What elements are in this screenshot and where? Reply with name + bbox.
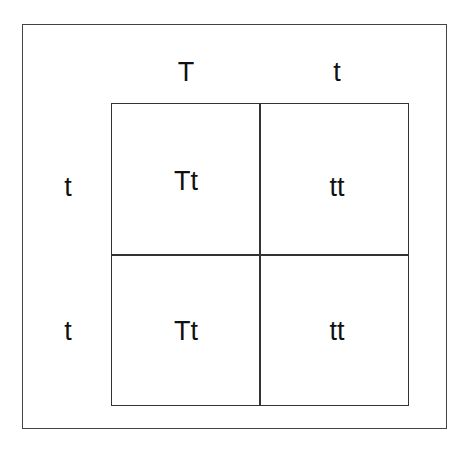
column-allele-1: T xyxy=(166,59,206,86)
cell-r1-c2: tt xyxy=(297,174,377,201)
grid-horizontal-divider xyxy=(111,254,409,256)
row-allele-1: t xyxy=(48,174,88,201)
column-allele-2: t xyxy=(317,59,357,86)
cell-r1-c1: Tt xyxy=(146,168,226,195)
cell-r2-c2: tt xyxy=(297,318,377,345)
cell-r2-c1: Tt xyxy=(146,318,226,345)
row-allele-2: t xyxy=(48,318,88,345)
